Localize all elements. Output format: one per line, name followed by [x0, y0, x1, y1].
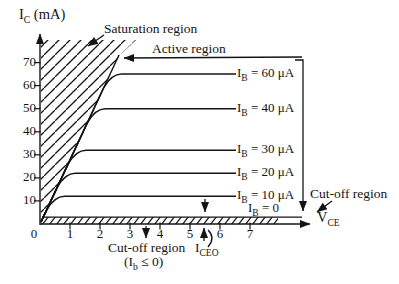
x-axis-title: VCE	[317, 210, 340, 228]
x-tick-label: 0	[26, 227, 42, 241]
curve-label-ib-20: IB = 20 μA	[237, 165, 294, 182]
active-region-arrow	[124, 57, 302, 58]
saturation-region-label: Saturation region	[104, 22, 197, 36]
y-tick-label: 30	[10, 147, 36, 161]
transistor-output-characteristics-figure: IC (mA) Saturation region Active region …	[0, 0, 399, 284]
curve-label-ib-0: IB = 0	[248, 201, 279, 218]
iceo-subscript: CEO	[200, 248, 219, 258]
x-tick-label: 6	[212, 227, 228, 241]
cutoff-condition-label: (Ib ≤ 0)	[124, 255, 163, 272]
x-axis-symbol: V	[317, 209, 327, 225]
y-axis-title: IC (mA)	[19, 7, 65, 25]
iceo-label: ICEO	[195, 241, 219, 258]
y-axis-unit: (mA)	[30, 6, 65, 22]
active-region-label: Active region	[152, 42, 226, 56]
curve-label-part: = 40 μA	[248, 100, 294, 115]
cutoff-region-right-label: Cut-off region	[310, 187, 387, 201]
x-axis-subscript: CE	[327, 218, 339, 228]
characteristic-curve-ib-30	[41, 150, 236, 222]
cutoff-condition-rest: ≤ 0)	[138, 254, 163, 269]
active-span-bracket	[295, 60, 303, 211]
x-tick-label: 5	[182, 227, 198, 241]
curve-label-part: = 0	[259, 200, 279, 215]
y-tick-label: 10	[10, 193, 36, 207]
y-tick-label: 40	[10, 124, 36, 138]
y-tick-label: 50	[10, 101, 36, 115]
curve-label-part: = 20 μA	[248, 164, 294, 179]
cutoff-region-bottom-label: Cut-off region	[108, 241, 185, 255]
characteristic-curve-ib-20	[41, 173, 236, 222]
x-tick-label: 1	[62, 227, 78, 241]
y-tick-label: 70	[10, 55, 36, 69]
x-tick-label: 7	[242, 227, 258, 241]
cutoff-condition-open: (I	[124, 254, 133, 269]
x-tick-label: 2	[92, 227, 108, 241]
curve-label-ib-60: IB = 60 μA	[237, 66, 294, 83]
curve-label-ib-30: IB = 30 μA	[237, 142, 294, 159]
curve-label-ib-40: IB = 40 μA	[237, 101, 294, 118]
y-tick-label: 60	[10, 78, 36, 92]
x-tick-label: 4	[152, 227, 168, 241]
x-tick-label: 3	[122, 227, 138, 241]
curve-label-part: = 60 μA	[248, 65, 294, 80]
y-tick-label: 20	[10, 170, 36, 184]
curve-label-part: = 30 μA	[248, 141, 294, 156]
